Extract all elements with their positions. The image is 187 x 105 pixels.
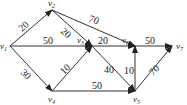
- node-label-v6: v6: [122, 35, 129, 46]
- edge-labels-group: 202070503010204050105070: [16, 13, 162, 91]
- edge-weight-label: 20: [16, 19, 31, 34]
- node-label-v4: v4: [48, 94, 55, 105]
- edge-weight-label: 50: [92, 80, 102, 91]
- node-label-v3: v3: [77, 35, 84, 46]
- edge-v2-v3: [52, 10, 92, 46]
- node-label-v7: v7: [176, 41, 184, 52]
- node-label-v2: v2: [48, 0, 55, 9]
- edge-weight-label: 10: [124, 65, 134, 76]
- graph-diagram: 202070503010204050105070 v1v2v3v4v5v6v7: [0, 0, 187, 105]
- edge-weight-label: 70: [87, 13, 100, 27]
- edge-weight-label: 10: [58, 62, 73, 77]
- edge-weight-label: 50: [43, 35, 53, 46]
- node-label-v5: v5: [133, 94, 140, 105]
- edge-weight-label: 20: [98, 35, 108, 46]
- edge-v1-v4: [10, 46, 52, 91]
- edge-weight-label: 70: [147, 63, 162, 78]
- edge-weight-label: 40: [104, 64, 114, 75]
- edge-weight-label: 50: [145, 35, 155, 46]
- node-label-v1: v1: [0, 41, 7, 52]
